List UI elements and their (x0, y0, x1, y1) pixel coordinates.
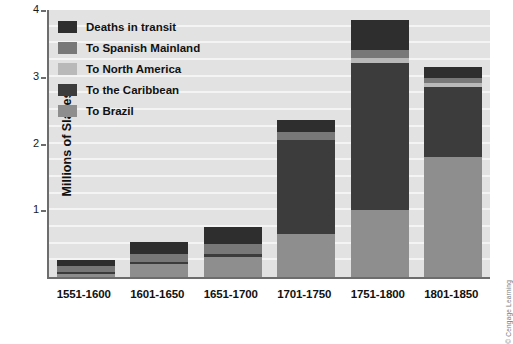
bar-segment (351, 210, 409, 277)
bar-segment (130, 254, 188, 262)
bar-segment (204, 227, 262, 244)
bar-segment (204, 244, 262, 253)
legend-label: To Spanish Mainland (86, 42, 200, 54)
legend-swatch (58, 42, 77, 54)
bar-1801-1850 (424, 67, 482, 277)
bar-segment (351, 50, 409, 58)
bar-segment (351, 63, 409, 210)
legend-item: To Spanish Mainland (58, 37, 200, 58)
legend-item: Deaths in transit (58, 16, 200, 37)
bar-segment (424, 157, 482, 277)
legend-label: To the Caribbean (86, 84, 179, 96)
bar-1651-1700 (204, 227, 262, 277)
chart-legend: Deaths in transitTo Spanish MainlandTo N… (58, 16, 200, 121)
x-tick-label: 1551-1600 (44, 288, 124, 300)
bar-segment (57, 266, 115, 273)
x-axis-line (47, 277, 490, 279)
x-tick-label: 1801-1850 (411, 288, 491, 300)
bar-1551-1600 (57, 260, 115, 277)
bar-1751-1800 (351, 20, 409, 277)
bar-segment (351, 20, 409, 50)
legend-label: To North America (86, 63, 181, 75)
bar-segment (277, 140, 335, 233)
bar-segment (277, 120, 335, 132)
legend-label: Deaths in transit (86, 21, 176, 33)
y-tick-label: 3 (19, 71, 39, 82)
bar-segment (277, 132, 335, 140)
x-tick-label: 1651-1700 (191, 288, 271, 300)
legend-swatch (58, 84, 77, 96)
legend-item: To the Caribbean (58, 79, 200, 100)
x-tick-label: 1751-1800 (338, 288, 418, 300)
legend-swatch (58, 21, 77, 33)
bar-segment (424, 67, 482, 78)
y-tick-label: 4 (19, 4, 39, 15)
legend-label: To Brazil (86, 105, 134, 117)
bar-segment (277, 234, 335, 277)
y-tick-mark (41, 10, 46, 12)
y-tick-label: 1 (19, 204, 39, 215)
x-tick-label: 1701-1750 (264, 288, 344, 300)
legend-swatch (58, 63, 77, 75)
bar-1601-1650 (130, 242, 188, 277)
bar-segment (130, 242, 188, 253)
copyright-credit: © Cengage Learning (505, 280, 512, 344)
bar-segment (130, 264, 188, 277)
bar-segment (424, 87, 482, 157)
bar-1701-1750 (277, 120, 335, 277)
x-tick-label: 1601-1650 (117, 288, 197, 300)
legend-item: To North America (58, 58, 200, 79)
bar-segment (204, 257, 262, 277)
y-tick-mark (41, 210, 46, 212)
legend-item: To Brazil (58, 100, 200, 121)
legend-swatch (58, 105, 77, 117)
y-tick-mark (41, 144, 46, 146)
y-tick-label: 2 (19, 138, 39, 149)
y-tick-mark (41, 77, 46, 79)
